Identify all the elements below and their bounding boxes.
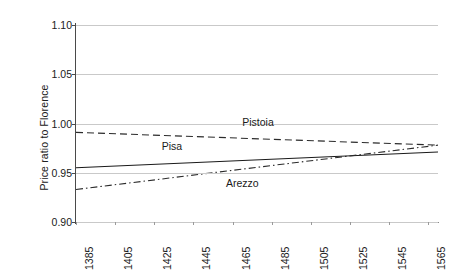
x-tick-label: 1505 bbox=[317, 226, 331, 270]
y-tick-label: 1.10 bbox=[34, 19, 72, 31]
x-tick-label: 1405 bbox=[121, 226, 135, 270]
y-tick-label: 0.95 bbox=[34, 167, 72, 179]
y-axis-tick-labels: 1.101.051.000.950.90 bbox=[28, 0, 72, 275]
y-tick-label: 1.05 bbox=[34, 68, 72, 80]
y-tick-mark bbox=[72, 173, 76, 174]
x-tick-mark bbox=[389, 222, 390, 225]
x-tick-label: 1445 bbox=[199, 226, 213, 270]
series-label-pisa: Pisa bbox=[162, 140, 182, 152]
gridline bbox=[76, 74, 438, 75]
x-tick-mark bbox=[272, 222, 273, 225]
x-tick-mark bbox=[154, 222, 155, 225]
x-tick-label: 1525 bbox=[356, 226, 370, 270]
x-tick-label: 1545 bbox=[395, 226, 409, 270]
y-tick-mark bbox=[72, 124, 76, 125]
x-tick-mark bbox=[115, 222, 116, 225]
x-axis-tick-labels: 1385140514251445146514851505152515451565 bbox=[76, 226, 438, 275]
x-tick-label: 1425 bbox=[160, 226, 174, 270]
y-tick-mark bbox=[72, 74, 76, 75]
series-line-pistoia bbox=[76, 132, 438, 145]
gridline bbox=[76, 222, 438, 223]
x-tick-label: 1465 bbox=[239, 226, 253, 270]
x-tick-mark bbox=[233, 222, 234, 225]
x-tick-label: 1385 bbox=[82, 226, 96, 270]
plot-area: PistoiaPisaArezzo bbox=[76, 25, 438, 222]
x-tick-mark bbox=[350, 222, 351, 225]
y-tick-label: 1.00 bbox=[34, 118, 72, 130]
y-tick-label: 0.90 bbox=[34, 216, 72, 228]
gridline bbox=[76, 25, 438, 26]
x-tick-mark bbox=[76, 222, 77, 225]
chart-figure: Price ratio to Florence 1.101.051.000.95… bbox=[0, 0, 451, 275]
x-tick-label: 1565 bbox=[434, 226, 448, 270]
x-tick-mark bbox=[311, 222, 312, 225]
y-tick-mark bbox=[72, 25, 76, 26]
x-tick-mark bbox=[193, 222, 194, 225]
gridline bbox=[76, 173, 438, 174]
x-tick-mark bbox=[428, 222, 429, 225]
series-label-arezzo: Arezzo bbox=[226, 177, 259, 189]
series-line-pisa bbox=[76, 152, 438, 168]
x-tick-label: 1485 bbox=[278, 226, 292, 270]
series-label-pistoia: Pistoia bbox=[242, 116, 274, 128]
